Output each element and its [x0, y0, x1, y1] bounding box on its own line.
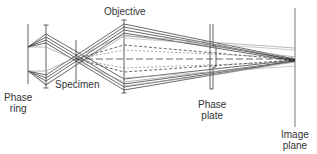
phase-plate-label-line2: plate [198, 110, 226, 121]
phase-plate-label: Phase plate [198, 99, 226, 121]
phase-contrast-diagram [0, 0, 317, 154]
phase-ring-label: Phase ring [4, 92, 32, 114]
image-plane-label: Image plane [281, 129, 309, 151]
phase-ring-label-line1: Phase [4, 92, 32, 103]
objective-label-text: Objective [104, 6, 146, 17]
image-plane-label-line2: plane [281, 140, 309, 151]
image-plane-label-line1: Image [281, 129, 309, 140]
objective-label: Objective [104, 6, 146, 17]
condenser-lens [44, 25, 49, 88]
diffracted-rays [76, 45, 295, 72]
phase-plate-label-line1: Phase [198, 99, 226, 110]
specimen-label: Specimen [55, 79, 99, 90]
phase-plate [210, 24, 216, 89]
phase-ring-label-line2: ring [4, 103, 32, 114]
specimen-label-text: Specimen [55, 79, 99, 90]
